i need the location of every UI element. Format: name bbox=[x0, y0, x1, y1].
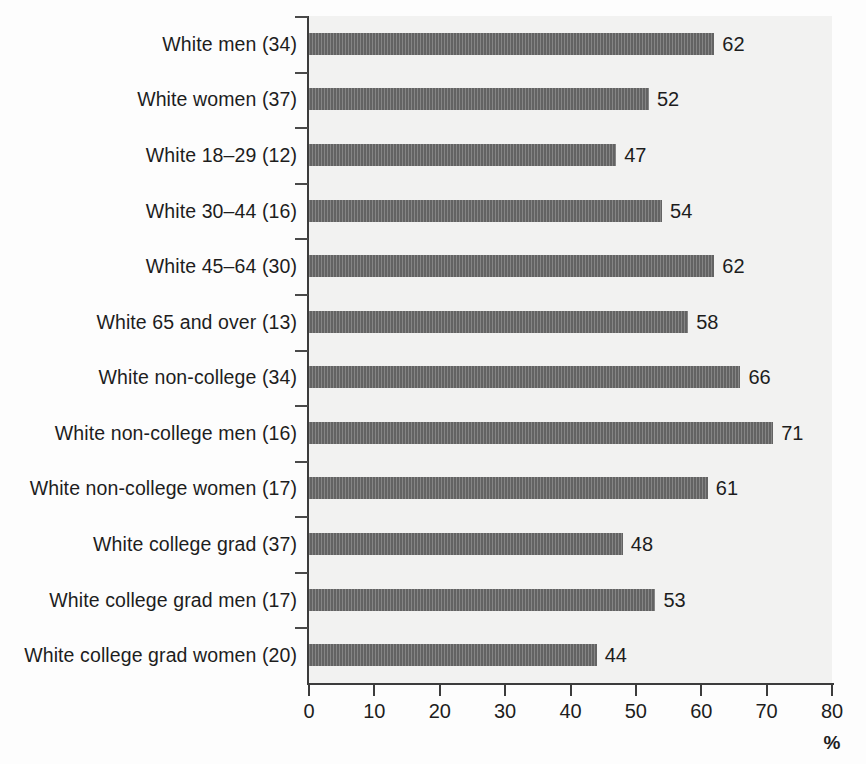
bar-value-label: 54 bbox=[662, 199, 692, 222]
x-axis-tick-label: 70 bbox=[756, 700, 778, 723]
bar-row: White 45–64 (30)62 bbox=[0, 238, 866, 294]
bar bbox=[309, 477, 708, 499]
x-axis-unit-label: % bbox=[824, 732, 841, 754]
bar-value-label: 62 bbox=[714, 32, 744, 55]
bar-category-label: White non-college women (17) bbox=[30, 477, 297, 500]
bar-track: 58 bbox=[309, 311, 832, 333]
bar-track: 66 bbox=[309, 366, 832, 388]
x-axis-tick-label: 0 bbox=[303, 700, 314, 723]
bar-category-label: White men (34) bbox=[162, 32, 297, 55]
bar-track: 44 bbox=[309, 644, 832, 666]
bar-value-label: 47 bbox=[616, 143, 646, 166]
bar-row: White college grad women (20)44 bbox=[0, 627, 866, 683]
bar-row: White women (37)52 bbox=[0, 72, 866, 128]
y-axis-tick bbox=[295, 127, 308, 129]
bar-value-label: 58 bbox=[688, 310, 718, 333]
bar-category-label: White college grad women (20) bbox=[24, 644, 297, 667]
bar-track: 62 bbox=[309, 255, 832, 277]
bar-row: White non-college women (17)61 bbox=[0, 461, 866, 517]
x-axis-tick bbox=[570, 683, 572, 696]
y-axis-tick bbox=[295, 183, 308, 185]
y-axis-tick bbox=[295, 627, 308, 629]
y-axis-tick bbox=[295, 238, 308, 240]
bar-row: White non-college men (16)71 bbox=[0, 405, 866, 461]
bar-value-label: 61 bbox=[708, 477, 738, 500]
x-axis-tick bbox=[504, 683, 506, 696]
bar bbox=[309, 88, 649, 110]
bar bbox=[309, 422, 773, 444]
bar-chart: White men (34)62White women (37)52White … bbox=[0, 0, 866, 764]
bar-category-label: White 65 and over (13) bbox=[96, 310, 297, 333]
bar-category-label: White 45–64 (30) bbox=[146, 255, 297, 278]
bar bbox=[309, 144, 616, 166]
bar-value-label: 66 bbox=[740, 366, 770, 389]
bar-category-label: White non-college (34) bbox=[99, 366, 297, 389]
y-axis-tick bbox=[295, 461, 308, 463]
bar bbox=[309, 311, 688, 333]
bar-row: White college grad (37)48 bbox=[0, 516, 866, 572]
bar-category-label: White college grad (37) bbox=[93, 533, 297, 556]
x-axis-tick bbox=[700, 683, 702, 696]
x-axis-tick bbox=[766, 683, 768, 696]
x-axis-tick bbox=[373, 683, 375, 696]
x-axis-tick bbox=[308, 683, 310, 696]
y-axis-tick bbox=[295, 516, 308, 518]
x-axis-tick-label: 60 bbox=[690, 700, 712, 723]
x-axis-tick bbox=[635, 683, 637, 696]
x-axis-tick-label: 30 bbox=[494, 700, 516, 723]
bar-category-label: White non-college men (16) bbox=[55, 421, 297, 444]
y-axis-tick bbox=[295, 405, 308, 407]
y-axis-tick bbox=[295, 72, 308, 74]
bar-category-label: White women (37) bbox=[137, 88, 297, 111]
bar-track: 62 bbox=[309, 33, 832, 55]
bar bbox=[309, 200, 662, 222]
y-axis-tick bbox=[295, 350, 308, 352]
x-axis-tick-label: 80 bbox=[821, 700, 843, 723]
bar bbox=[309, 589, 655, 611]
x-axis-tick bbox=[439, 683, 441, 696]
bar-category-label: White 18–29 (12) bbox=[146, 143, 297, 166]
bar-row: White 30–44 (16)54 bbox=[0, 183, 866, 239]
y-axis-tick bbox=[295, 16, 308, 18]
bar-track: 71 bbox=[309, 422, 832, 444]
bar-category-label: White 30–44 (16) bbox=[146, 199, 297, 222]
bar bbox=[309, 644, 597, 666]
bar-track: 47 bbox=[309, 144, 832, 166]
bar-value-label: 48 bbox=[623, 533, 653, 556]
bar-track: 61 bbox=[309, 477, 832, 499]
bar bbox=[309, 533, 623, 555]
bar-category-label: White college grad men (17) bbox=[49, 588, 297, 611]
bar-value-label: 44 bbox=[597, 644, 627, 667]
bar-track: 54 bbox=[309, 200, 832, 222]
x-axis-tick bbox=[831, 683, 833, 696]
bar-row: White college grad men (17)53 bbox=[0, 572, 866, 628]
bar bbox=[309, 255, 714, 277]
bar-value-label: 62 bbox=[714, 255, 744, 278]
x-axis-tick-label: 40 bbox=[559, 700, 581, 723]
x-axis-tick-label: 10 bbox=[363, 700, 385, 723]
y-axis-tick bbox=[295, 572, 308, 574]
bar-row: White non-college (34)66 bbox=[0, 350, 866, 406]
bar-row: White 18–29 (12)47 bbox=[0, 127, 866, 183]
y-axis-tick bbox=[295, 294, 308, 296]
bar-row: White 65 and over (13)58 bbox=[0, 294, 866, 350]
bar-track: 52 bbox=[309, 88, 832, 110]
x-axis-tick-label: 50 bbox=[625, 700, 647, 723]
bar-track: 53 bbox=[309, 589, 832, 611]
bar-value-label: 53 bbox=[655, 588, 685, 611]
x-axis-tick-label: 20 bbox=[429, 700, 451, 723]
bar-row: White men (34)62 bbox=[0, 16, 866, 72]
bar bbox=[309, 33, 714, 55]
bar-value-label: 71 bbox=[773, 421, 803, 444]
bar-track: 48 bbox=[309, 533, 832, 555]
bar bbox=[309, 366, 740, 388]
bar-value-label: 52 bbox=[649, 88, 679, 111]
